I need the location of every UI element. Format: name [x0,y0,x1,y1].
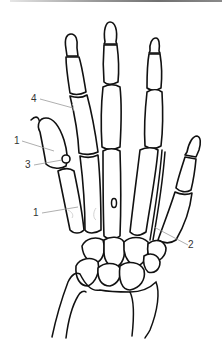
index-distal-phalanx [65,34,78,56]
ring-middle-phalanx [147,54,162,90]
hand-skeleton-diagram [0,0,222,361]
ring-metacarpal [130,148,158,235]
triquetrum [119,263,144,290]
middle-metacarpal [103,149,121,239]
lunate [98,264,121,287]
middle-finger [101,22,121,239]
little-distal-phalanx [185,136,200,157]
thumb-metacarpal [58,169,84,233]
trapezoid [104,237,125,266]
ring-proximal-phalanx [145,90,163,149]
pisiform [144,254,160,273]
index-middle-phalanx [66,57,86,94]
little-proximal-phalanx [158,192,192,243]
label-3: 3 [25,160,31,170]
scaphoid [76,259,99,286]
radius-inner [66,291,86,338]
ring-distal-phalanx [149,38,160,53]
label-1-upper: 1 [14,136,20,146]
middle-proximal-phalanx [101,85,121,150]
carpal-bones [76,237,166,290]
ring-finger [130,38,163,235]
ulna [130,282,158,338]
label-1-lower: 1 [33,208,39,218]
little-middle-phalanx [176,157,196,192]
middle-middle-phalanx [103,45,118,84]
sesamoid-bone [62,155,70,163]
index-proximal-phalanx [70,95,98,154]
leader-4 [40,99,73,108]
label-2: 2 [188,240,194,250]
middle-distal-phalanx [104,22,117,44]
label-4: 4 [31,94,37,104]
